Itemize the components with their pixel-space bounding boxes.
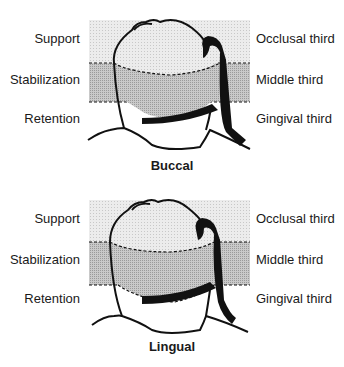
occlusal-third-label: Occlusal third [256, 211, 335, 227]
occlusal-third-label: Occlusal third [256, 31, 335, 47]
buccal-panel: Support Stabilization Retention Occlusal… [0, 0, 344, 180]
gingival-third-label: Gingival third [256, 111, 332, 127]
gingival-third-label: Gingival third [256, 291, 332, 307]
lingual-panel: Support Stabilization Retention Occlusal… [0, 180, 344, 360]
stabilization-label: Stabilization [10, 252, 80, 268]
support-label: Support [34, 211, 80, 227]
buccal-caption: Buccal [0, 158, 344, 173]
lingual-caption: Lingual [0, 339, 344, 354]
support-label: Support [34, 31, 80, 47]
retention-label: Retention [24, 291, 80, 307]
middle-third-label: Middle third [256, 252, 323, 268]
retention-label: Retention [24, 111, 80, 127]
middle-third-label: Middle third [256, 72, 323, 88]
stabilization-label: Stabilization [10, 72, 80, 88]
